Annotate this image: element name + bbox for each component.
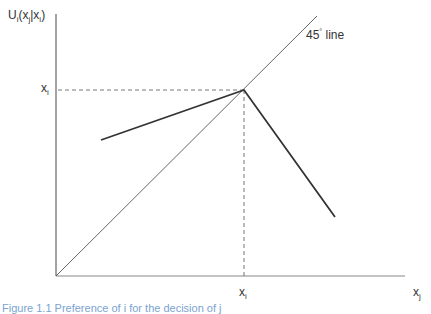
x-tick-sub: i bbox=[245, 292, 247, 301]
45-degree-annotation: 45° line bbox=[306, 28, 344, 42]
y-tick-sub: i bbox=[47, 88, 49, 97]
y-label-end: ) bbox=[41, 8, 45, 22]
y-tick-label: xi bbox=[41, 81, 49, 97]
annotation-number: 45 bbox=[306, 28, 319, 42]
45-degree-line bbox=[56, 16, 317, 276]
utility-curve bbox=[101, 90, 335, 217]
x-label-sub: j bbox=[419, 292, 421, 301]
y-label-mid: (x bbox=[18, 8, 28, 22]
x-tick-label: xi bbox=[239, 285, 247, 301]
annotation-suffix: line bbox=[322, 28, 344, 42]
figure-caption: Figure 1.1 Preference of i for the decis… bbox=[2, 302, 222, 314]
y-label-u: U bbox=[8, 8, 17, 22]
y-axis-label: Ui(xj|xi) bbox=[8, 8, 45, 24]
x-axis-label: xj bbox=[413, 285, 421, 301]
y-label-bar: |x bbox=[30, 8, 39, 22]
